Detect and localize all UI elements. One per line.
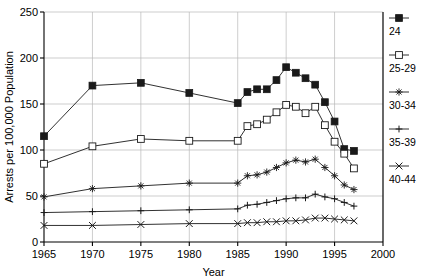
series-line-35-39	[44, 194, 354, 212]
series-marker-25-29	[41, 160, 48, 167]
y-tick-label-150: 150	[20, 98, 38, 110]
y-tick-label-100: 100	[20, 144, 38, 156]
x-tick-label-2000: 2000	[371, 248, 395, 260]
series-marker-25-29	[244, 123, 251, 130]
series-marker-25-29	[292, 103, 299, 110]
series-marker-25-29	[273, 109, 280, 116]
series-marker-24	[186, 90, 193, 97]
series-marker-24	[312, 81, 319, 88]
x-tick-label-1990: 1990	[274, 248, 298, 260]
x-tick-label-1985: 1985	[225, 248, 249, 260]
series-marker-24	[273, 77, 280, 84]
x-tick-label-1995: 1995	[322, 248, 346, 260]
series-marker-24	[254, 86, 261, 93]
series-marker-25-29	[283, 102, 290, 109]
y-tick-label-50: 50	[26, 190, 38, 202]
series-marker-25-29	[186, 137, 193, 144]
series-marker-24	[351, 148, 358, 155]
series-marker-24	[244, 89, 251, 96]
series-marker-24	[137, 79, 144, 86]
series-marker-25-29	[302, 110, 309, 117]
legend-label-25-29: 25-29	[389, 62, 416, 74]
series-marker-25-29	[341, 150, 348, 157]
legend-label-35-39: 35-39	[389, 136, 416, 148]
series-line-30-34	[44, 159, 354, 197]
series-marker-24	[41, 133, 48, 140]
chart-canvas: 0501001502002501965197019751980198519901…	[0, 0, 424, 280]
series-marker-25-29	[331, 138, 338, 145]
series-marker-25-29	[312, 103, 319, 110]
series-marker-25-29	[234, 137, 241, 144]
series-marker-24	[331, 118, 338, 125]
y-tick-label-250: 250	[20, 6, 38, 18]
arrests-by-age-line-chart: 0501001502002501965197019751980198519901…	[0, 0, 424, 280]
legend-label-30-34: 30-34	[389, 99, 416, 111]
legend-label-24: 24	[389, 25, 401, 37]
series-marker-24	[89, 82, 96, 89]
series-marker-24	[321, 99, 328, 106]
series-marker-25-29	[321, 122, 328, 129]
x-tick-label-1980: 1980	[177, 248, 201, 260]
series-marker-25-29	[254, 121, 261, 128]
y-tick-label-0: 0	[32, 236, 38, 248]
y-tick-label-200: 200	[20, 52, 38, 64]
x-tick-label-1970: 1970	[80, 248, 104, 260]
series-marker-25-29	[89, 143, 96, 150]
series-marker-24	[263, 86, 270, 93]
x-tick-label-1975: 1975	[129, 248, 153, 260]
series-marker-24	[234, 100, 241, 107]
series-marker-24	[292, 69, 299, 76]
x-tick-label-1965: 1965	[32, 248, 56, 260]
series-marker-25-29	[263, 116, 270, 123]
series-marker-24	[283, 64, 290, 71]
legend-marker-25-29	[396, 52, 403, 59]
y-axis-title: Arrests per 100,000 Population	[3, 51, 15, 203]
series-marker-24	[302, 75, 309, 82]
series-marker-25-29	[137, 136, 144, 143]
legend-label-40-44: 40-44	[389, 173, 416, 185]
series-marker-25-29	[351, 165, 358, 172]
x-axis-title: Year	[202, 266, 225, 278]
legend-marker-24	[396, 15, 403, 22]
